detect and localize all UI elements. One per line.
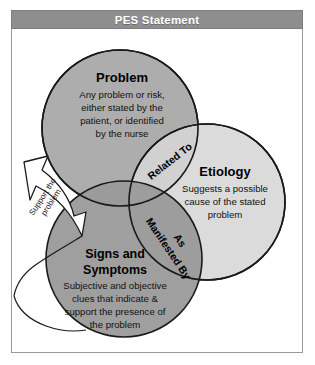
- signs-title-line-2: Symptoms: [83, 263, 147, 277]
- etiology-body-line-1: Suggests a possible: [182, 183, 268, 194]
- problem-body-line-1: Any problem or risk,: [79, 89, 164, 100]
- problem-body-line-4: by the nurse: [96, 128, 149, 139]
- problem-title: Problem: [96, 70, 148, 85]
- problem-body-line-2: either stated by the: [81, 102, 163, 113]
- signs-body-line-3: support the presence of: [65, 306, 166, 317]
- etiology-title: Etiology: [199, 164, 251, 179]
- signs-body-line-4: the problem: [90, 319, 141, 330]
- header-bar: PES Statement: [11, 10, 303, 29]
- pes-statement-diagram: PES Statement Problem Any problem or ris…: [0, 0, 315, 365]
- signs-title-line-1: Signs and: [85, 247, 145, 261]
- problem-body-line-3: patient, or identified: [80, 115, 164, 126]
- signs-body-line-1: Subjective and objective: [63, 280, 166, 291]
- etiology-body-line-2: cause of the stated: [184, 196, 265, 207]
- venn-stage: Problem Any problem or risk, either stat…: [12, 30, 302, 352]
- etiology-body-line-3: problem: [208, 209, 243, 220]
- signs-body-line-2: clues that indicate &: [72, 293, 158, 304]
- page-title: PES Statement: [115, 14, 199, 26]
